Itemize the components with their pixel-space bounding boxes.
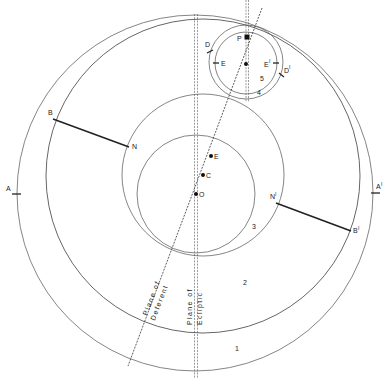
label-p: P [237,35,242,42]
label-plane-of-ecliptic: Plane of Ecliptic [186,288,204,325]
point-e [209,154,213,158]
label-b-prime-mark: I [358,225,359,231]
label-a: A [6,185,11,192]
label-b: B [48,109,53,116]
epicycle-center-point [244,62,248,66]
label-e: E [214,153,219,160]
ecliptic-label-line1: Plane of [186,288,193,325]
label-o: O [199,191,205,198]
ecliptic-label-line2: Ecliptic [196,292,204,325]
label-epi-e: E [221,60,226,67]
region-number-2: 2 [243,279,247,286]
label-n: N [132,143,137,150]
epicycle-vertical-axis [246,0,249,102]
region-number-1: 1 [235,345,239,352]
radius-b-n [53,119,129,147]
label-epi-e-prime-mark: I [269,58,270,64]
region-number-4: 4 [257,89,261,96]
point-c [201,173,205,177]
label-d: D [205,41,210,48]
planet-point-p [245,35,250,40]
label-d-prime-mark: I [289,64,290,70]
region-number-5: 5 [260,75,264,82]
label-n-prime-mark: I [275,191,276,197]
point-o [194,192,198,196]
radius-b-prime-n-prime [276,203,351,231]
region-number-3: 3 [252,223,256,230]
label-c: C [206,172,211,179]
label-a-prime-mark: I [381,181,382,187]
label-plane-of-deferent: Plane of Deferent [141,279,170,321]
ptolemaic-planetary-model-diagram: A A I B N N I B I O C E P D E E I D I 1 … [0,0,392,378]
